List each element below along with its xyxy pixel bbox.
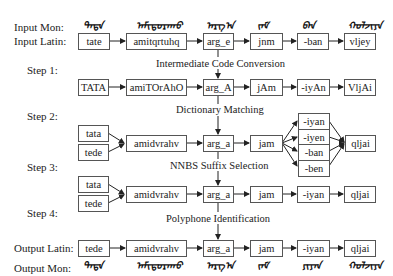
input-box-amitqrtuhq: amitqrtuhq: [126, 33, 187, 50]
output-box-qljai: qljai: [344, 240, 376, 257]
label-step3: Step 3:: [27, 161, 58, 173]
step3-box-amidvrahv: amidvrahv: [126, 186, 187, 203]
label-step2: Step 2:: [27, 110, 58, 122]
step3-box-tata: tata: [78, 176, 109, 193]
mongolian-glyph-out-tede: ᠲᠠᠲᠡ: [83, 260, 103, 272]
step3-box-jam: jam: [250, 186, 283, 203]
step2-box-ban: -ban: [298, 144, 330, 161]
caption-step2: Dictionary Matching: [176, 104, 264, 116]
label-step1: Step 1:: [27, 64, 58, 76]
input-box-ban: -ban: [297, 33, 329, 50]
label-step4: Step 4:: [27, 207, 58, 219]
label-input-mon: Input Mon:: [14, 21, 64, 33]
mongolian-glyph-out-amidvrahv: ᠠᠮᠢᠳᠤᠷᠠᠬᠤ: [136, 260, 182, 272]
input-box-vljey: vljey: [344, 33, 376, 50]
step3-box-tede: tede: [78, 195, 109, 212]
step1-box-VljAi: VljAi: [344, 79, 376, 96]
step1-box-amiTOrAhO: amiTOrAhO: [126, 79, 187, 96]
step2-box-jam: jam: [250, 135, 283, 152]
step2-box-tata: tata: [78, 125, 109, 142]
caption-step3: NNBS Suffix Selection: [170, 160, 268, 172]
caption-step1: Intermediate Code Conversion: [156, 58, 285, 70]
step2-box-iyan: -iyan: [298, 113, 330, 130]
caption-step4: Polyphone Identification: [166, 213, 270, 225]
mongolian-glyph-ban: ᠪᠠᠨ: [302, 20, 315, 32]
step2-box-qljai: qljai: [345, 135, 376, 152]
output-box-arg-a: arg_a: [203, 240, 234, 257]
step2-box-amidvrahv: amidvrahv: [126, 135, 187, 152]
mongolian-glyph-out-jam: ᠵᠠᠮ: [257, 260, 269, 272]
mongolian-glyph-out-qljai: ᠬᠣᠯᠵᠢᠶᠠ: [348, 260, 382, 272]
label-input-latin: Input Latin:: [14, 35, 66, 47]
step2-box-tede: tede: [78, 144, 109, 161]
step3-box-qljai: qljai: [344, 186, 376, 203]
output-box-iyan: -iyan: [297, 240, 330, 257]
mongolian-glyph-out-iyan: ᠶᠢᠶᠠᠨ: [302, 260, 321, 272]
step1-box-jAm: jAm: [250, 79, 283, 96]
mongolian-glyph-out-arg-a: ᠠᠷᠭ᠎ᠠ: [206, 260, 234, 272]
step2-box-arg-a: arg_a: [203, 135, 234, 152]
mongolian-glyph-arg-e: ᠠᠷᠭ᠎ᠠ: [206, 20, 234, 32]
input-box-arg-e: arg_e: [203, 33, 234, 50]
step1-box-arg-A: arg_A: [203, 79, 234, 96]
mongolian-glyph-vljey: ᠬᠣᠯᠵᠢᠶᠠ: [348, 20, 382, 32]
label-output-mon: Output Mon:: [14, 262, 71, 274]
input-box-tate: tate: [78, 33, 110, 50]
output-box-amidvrahv: amidvrahv: [126, 240, 187, 257]
label-output-latin: Output Latin:: [14, 242, 74, 254]
step3-box-iyan: -iyan: [297, 186, 330, 203]
mongolian-glyph-tate: ᠲᠠᠲᠡ: [83, 20, 103, 32]
step1-box-iyAn: -iyAn: [297, 79, 330, 96]
mongolian-glyph-jnm: ᠵᠠᠮ: [257, 20, 269, 32]
output-box-tede: tede: [78, 240, 110, 257]
input-box-jnm: jnm: [250, 33, 283, 50]
step2-box-ben: -ben: [298, 160, 330, 177]
step1-box-TATA: TATA: [78, 79, 109, 96]
output-box-jam: jam: [250, 240, 283, 257]
step3-box-arg-a: arg_a: [203, 186, 234, 203]
mongolian-glyph-amitqrtuhq: ᠠᠮᠢᠳᠤᠷᠠᠬᠤ: [136, 20, 182, 32]
